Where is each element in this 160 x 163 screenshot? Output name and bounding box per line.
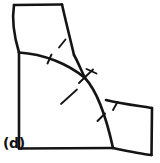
upper-left-right-curve: [62, 5, 74, 56]
outer-bottom-edge: [19, 148, 113, 149]
interface-lower-arc: [85, 78, 113, 148]
lower-right-right-edge: [152, 108, 153, 155]
lower-right-top-curve: [106, 100, 152, 108]
panel-label: (d): [3, 136, 25, 150]
free-diagonal-dash-icon: [61, 90, 77, 105]
upper-left-region: [13, 5, 74, 56]
upper-left-top-edge: [14, 5, 62, 6]
upper-left-left-curve: [13, 5, 19, 53]
hatch-tick-1-icon: [59, 40, 66, 48]
lower-right-bottom-curve: [113, 148, 152, 155]
figure-panel-d: (d): [0, 0, 160, 163]
